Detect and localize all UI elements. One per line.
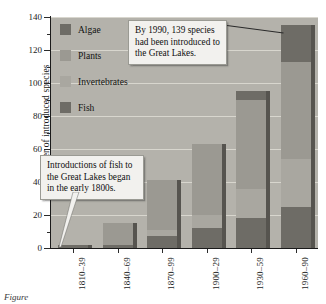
bar-segment-plants[interactable] (103, 223, 133, 244)
bar-shadow-top (266, 91, 270, 94)
legend-item-plants[interactable]: Plants (60, 50, 101, 61)
y-axis-tick-label: 60 (18, 145, 42, 154)
bar-segment-fish[interactable] (192, 228, 222, 248)
bar-segment-fish[interactable] (281, 207, 311, 248)
figure-caption: Figure (0, 292, 326, 304)
bar-segment-invertebrates[interactable] (147, 230, 177, 237)
bar-segment-plants[interactable] (281, 62, 311, 159)
bar-segment-fish[interactable] (147, 236, 177, 248)
bar-stack (147, 180, 177, 248)
bar-shadow-top (133, 223, 137, 226)
x-axis-tick-mark (118, 249, 119, 253)
legend-label: Invertebrates (78, 77, 128, 87)
legend-label: Plants (78, 51, 101, 61)
legend-swatch-invertebrates (60, 76, 71, 87)
x-axis-tick-mark (251, 249, 252, 253)
bar-segment-plants[interactable] (147, 180, 177, 230)
legend-swatch-fish (60, 102, 71, 113)
legend-swatch-plants (60, 50, 71, 61)
y-axis-tick-label: 40 (18, 178, 42, 187)
bar-shadow-top (222, 144, 226, 147)
bar-shadow-top (311, 25, 315, 28)
x-axis-tick-mark (162, 249, 163, 253)
y-axis-tick-label: 140 (18, 13, 42, 22)
gridline (51, 17, 318, 18)
bar-segment-invertebrates[interactable] (236, 189, 266, 219)
bar-group[interactable] (236, 17, 266, 248)
bar-shadow (133, 226, 137, 248)
bar-group[interactable] (281, 17, 311, 248)
figure-caption-text: Figure (4, 292, 28, 302)
bar-segment-algae[interactable] (236, 91, 266, 99)
figure-introduced-species: Number of introduced species 02040608010… (0, 0, 326, 304)
x-axis-tick-label: 1840–69 (122, 257, 132, 290)
bar-shadow (311, 28, 315, 248)
callout-leader-wedge (56, 192, 86, 250)
legend-item-fish[interactable]: Fish (60, 102, 94, 113)
x-axis-line (50, 248, 318, 249)
bar-shadow-top (177, 180, 181, 183)
gridline (51, 116, 318, 117)
legend-label: Fish (78, 103, 94, 113)
legend-swatch-algae (60, 24, 71, 35)
bar-stack (281, 25, 311, 248)
y-axis-tick-label: 100 (18, 79, 42, 88)
bar-shadow (177, 183, 181, 248)
x-axis-tick-label: 1930–59 (255, 257, 265, 290)
legend-label: Algae (78, 25, 101, 35)
x-axis-tick-label: 1960–90 (300, 257, 310, 290)
legend-item-algae[interactable]: Algae (60, 24, 101, 35)
x-axis-tick-mark (207, 249, 208, 253)
gridline (51, 215, 318, 216)
bar-segment-fish[interactable] (236, 218, 266, 248)
gridline (51, 149, 318, 150)
x-axis-tick-label: 1810–39 (77, 257, 87, 290)
bar-segment-plants[interactable] (236, 100, 266, 189)
x-axis-tick-label: 1900–29 (211, 257, 221, 290)
callout-1990-species: By 1990, 139 species had been introduced… (128, 20, 227, 65)
y-axis-tick-label: 120 (18, 46, 42, 55)
bar-segment-algae[interactable] (281, 25, 311, 61)
y-axis-tick-label: 80 (18, 112, 42, 121)
y-axis-tick-label: 20 (18, 211, 42, 220)
bar-stack (103, 223, 133, 248)
y-axis-tick-label: 0 (18, 244, 42, 253)
bar-shadow (266, 94, 270, 248)
y-axis-tick-labels: 020406080100120140 (18, 10, 42, 254)
bar-shadow (222, 147, 226, 248)
x-axis-tick-label: 1870–99 (166, 257, 176, 290)
bar-segment-invertebrates[interactable] (281, 159, 311, 207)
legend-item-invertebrates[interactable]: Invertebrates (60, 76, 128, 87)
bar-segment-plants[interactable] (192, 144, 222, 215)
bar-stack (192, 144, 222, 248)
y-axis-line (50, 16, 51, 249)
bar-stack (236, 91, 266, 248)
x-axis-tick-mark (296, 249, 297, 253)
bar-segment-invertebrates[interactable] (192, 215, 222, 228)
